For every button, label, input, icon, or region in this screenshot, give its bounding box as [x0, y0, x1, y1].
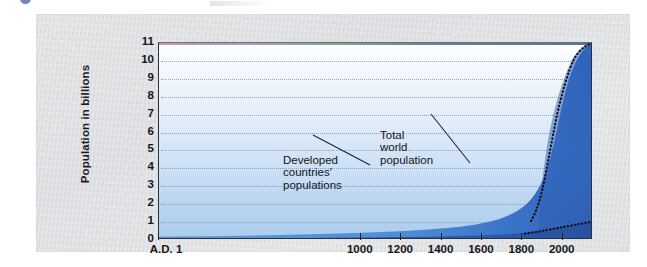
total-leader-line — [431, 114, 470, 163]
figure-card: Population in billions 01234567891011 — [36, 14, 630, 252]
x-tick-label-1200: 1200 — [387, 243, 413, 255]
caption-fragment-glyph — [20, 0, 31, 4]
y-tick-2: 2 — [132, 197, 154, 209]
x-tick-mark-1600 — [481, 233, 482, 240]
y-tick-3: 3 — [132, 180, 154, 192]
total-world-population-area — [159, 43, 592, 239]
x-tick-label-1800: 1800 — [509, 243, 535, 255]
caption-smudge — [210, 1, 270, 6]
x-tick-label-1400: 1400 — [428, 243, 454, 255]
x-tick-label-1000: 1000 — [347, 243, 373, 255]
annotation-total-world-population: Total world population — [380, 129, 433, 166]
x-tick-label-2000: 2000 — [549, 243, 575, 255]
x-tick-mark-1200 — [400, 233, 401, 240]
y-axis-tick-labels: 01234567891011 — [132, 42, 154, 239]
y-tick-6: 6 — [132, 126, 154, 138]
y-axis-title: Population in billions — [79, 44, 91, 204]
y-tick-4: 4 — [132, 162, 154, 174]
x-axis-tick-marks — [158, 233, 592, 240]
projection-region-fill — [538, 43, 592, 239]
annotation-developed-countries: Developed countries' populations — [283, 154, 342, 191]
x-tick-mark-1400 — [441, 233, 442, 240]
figure-root: Population in billions 01234567891011 — [0, 0, 647, 267]
x-tick-mark-2000 — [562, 233, 563, 240]
plot-area — [158, 42, 592, 239]
x-axis-tick-labels: A.D. 1100012001400160018002000 — [136, 243, 616, 259]
y-tick-1: 1 — [132, 215, 154, 227]
population-area-chart — [159, 43, 592, 239]
y-tick-5: 5 — [132, 144, 154, 156]
y-tick-11: 11 — [132, 36, 154, 48]
y-tick-10: 10 — [132, 54, 154, 66]
y-tick-9: 9 — [132, 72, 154, 84]
x-tick-mark-1000 — [360, 233, 361, 240]
x-tick-label-1600: 1600 — [468, 243, 494, 255]
x-tick-label-AD1: A.D. 1 — [150, 243, 183, 255]
y-tick-7: 7 — [132, 108, 154, 120]
y-tick-8: 8 — [132, 90, 154, 102]
x-tick-mark-AD1 — [158, 233, 159, 240]
x-tick-mark-1800 — [521, 233, 522, 240]
